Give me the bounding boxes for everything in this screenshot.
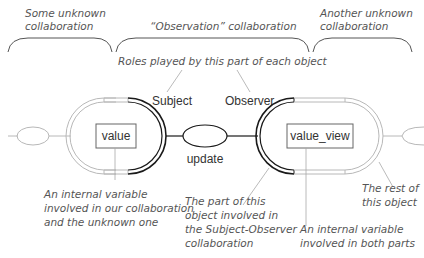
annotation-right-variable: An internal variable involved in both pa… — [299, 223, 415, 249]
roles-caption: Roles played by this part of each object — [118, 55, 328, 67]
svg-text:collaboration: collaboration — [185, 237, 253, 249]
update-message-label: update — [187, 152, 224, 166]
value-view-variable-label: value_view — [290, 129, 350, 143]
observer-object: value_view — [256, 98, 383, 174]
leader-line — [167, 70, 182, 92]
annotation-rest-of-object: The rest of this object — [362, 182, 421, 208]
bracket-label: “Observation” collaboration — [150, 20, 297, 32]
bracket-some-unknown: Some unknown collaboration — [8, 7, 112, 52]
bracket-observation: “Observation” collaboration — [116, 20, 309, 52]
value-variable-label: value — [102, 129, 131, 143]
svg-text:The part of this: The part of this — [185, 195, 266, 207]
svg-text:The rest of: The rest of — [362, 182, 421, 194]
update-connector: update — [166, 125, 258, 166]
update-message-ellipse — [183, 125, 227, 147]
bracket-label: collaboration — [320, 20, 388, 32]
subject-object: value — [66, 98, 166, 174]
svg-text:An internal variable: An internal variable — [43, 188, 147, 200]
svg-text:the Subject-Observer: the Subject-Observer — [185, 223, 297, 235]
bracket-label: Some unknown — [25, 7, 106, 19]
leader-line — [237, 70, 250, 92]
svg-text:object involved in: object involved in — [185, 209, 278, 221]
subject-observer-diagram: Some unknown collaboration “Observation”… — [0, 0, 424, 258]
bracket-label: collaboration — [25, 20, 93, 32]
bracket-another-unknown: Another unknown collaboration — [313, 7, 413, 52]
svg-text:An internal variable: An internal variable — [299, 223, 403, 235]
svg-text:this object: this object — [362, 196, 418, 208]
bracket-label: Another unknown — [319, 7, 413, 19]
svg-text:involved in both parts: involved in both parts — [300, 237, 415, 249]
role-label-subject: Subject — [152, 94, 193, 108]
annotation-left-variable: An internal variable involved in our col… — [43, 188, 194, 228]
unknown-object-right — [383, 127, 424, 145]
svg-text:involved in our collaboration: involved in our collaboration — [44, 202, 194, 214]
svg-text:and the unknown one: and the unknown one — [44, 216, 158, 228]
role-label-observer: Observer — [225, 94, 274, 108]
unknown-object-left — [8, 127, 71, 145]
annotation-role-part: The part of this object involved in the … — [185, 195, 297, 249]
